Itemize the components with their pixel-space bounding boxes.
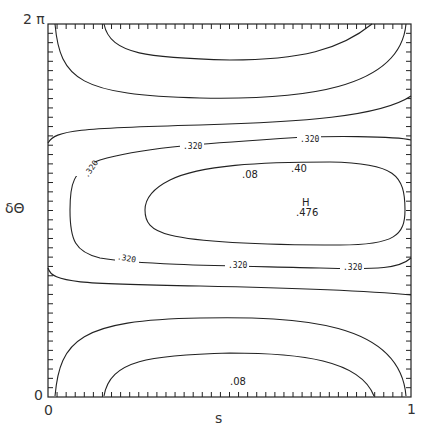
- svg-text:.08: .08: [242, 169, 258, 180]
- x-tick-left: 0: [44, 402, 53, 418]
- svg-text:.320: .320: [300, 135, 319, 144]
- contour-lines: [48, 24, 411, 396]
- svg-text:.320: .320: [183, 142, 202, 151]
- svg-text:.320: .320: [343, 263, 362, 272]
- contour-top-outer: [55, 24, 406, 98]
- y-tick-bottom: 0: [34, 387, 43, 403]
- svg-text:.320: .320: [228, 261, 247, 270]
- contour-plot: .08 .320 .320 .320 .320 .320 .320 .40 H …: [0, 0, 432, 436]
- svg-text:.08: .08: [230, 376, 246, 387]
- svg-text:.40: .40: [291, 163, 307, 174]
- contour-upper-band: [48, 96, 411, 143]
- contour-labels: .08 .320 .320 .320 .320 .320 .320 .40 H …: [75, 134, 364, 387]
- y-tick-top: 2 π: [23, 11, 45, 27]
- svg-text:.476: .476: [296, 207, 318, 218]
- x-axis-label: s: [215, 410, 222, 426]
- contour-40: [145, 162, 405, 245]
- contour-320: [70, 137, 411, 269]
- y-axis-label: δΘ: [5, 200, 25, 216]
- x-tick-right: 1: [407, 401, 416, 417]
- contour-top-08: [104, 24, 372, 60]
